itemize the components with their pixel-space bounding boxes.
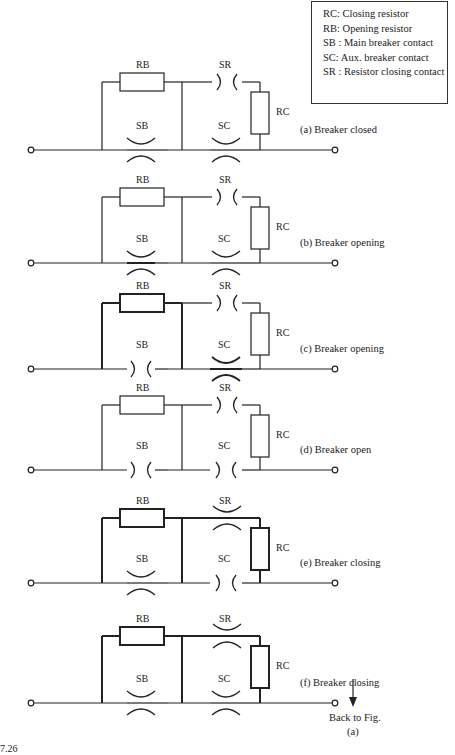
sr-label: SR [219, 280, 231, 291]
panel-caption-e: (e) Breaker closing [300, 557, 380, 568]
panel-caption-f: (f) Breaker closing [300, 677, 379, 688]
rc-label: RC [276, 221, 289, 232]
sr-label: SR [219, 382, 231, 393]
rb-label: RB [136, 613, 149, 624]
sb-label: SB [136, 120, 148, 131]
sr-label: SR [219, 613, 231, 624]
sr-label: SR [219, 174, 231, 185]
rc-label: RC [276, 106, 289, 117]
sb-label: SB [136, 440, 148, 451]
figure-number: 7.26 [0, 743, 18, 754]
sc-label: SC [218, 120, 230, 131]
rc-label: RC [276, 327, 289, 338]
back-to-fig-ref: (a) [347, 726, 359, 737]
sc-label: SC [218, 339, 230, 350]
sb-label: SB [136, 339, 148, 350]
panel-caption-b: (b) Breaker opening [300, 237, 385, 248]
sc-label: SC [218, 673, 230, 684]
rb-label: RB [136, 495, 149, 506]
sc-label: SC [218, 440, 230, 451]
sb-label: SB [136, 553, 148, 564]
panel-caption-d: (d) Breaker open [300, 444, 371, 455]
rb-label: RB [136, 280, 149, 291]
sc-label: SC [218, 233, 230, 244]
rc-label: RC [276, 660, 289, 671]
sr-label: SR [219, 495, 231, 506]
rb-label: RB [136, 382, 149, 393]
rb-label: RB [136, 174, 149, 185]
circuit-diagrams [0, 0, 455, 755]
panel-caption-c: (c) Breaker opening [300, 343, 384, 354]
rc-label: RC [276, 542, 289, 553]
rb-label: RB [136, 59, 149, 70]
sc-label: SC [218, 553, 230, 564]
panel-caption-a: (a) Breaker closed [300, 124, 377, 135]
rc-label: RC [276, 429, 289, 440]
back-to-fig-label: Back to Fig. [329, 712, 381, 723]
sr-label: SR [219, 59, 231, 70]
sb-label: SB [136, 233, 148, 244]
sb-label: SB [136, 673, 148, 684]
